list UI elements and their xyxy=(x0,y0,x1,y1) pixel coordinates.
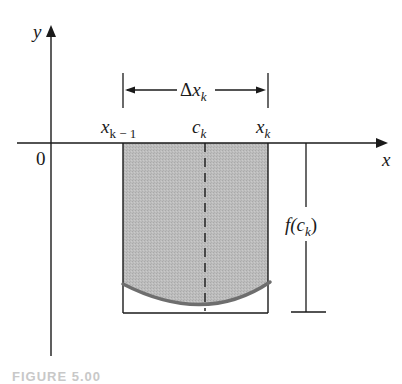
y-axis-arrow-icon xyxy=(46,25,56,37)
shaded-region xyxy=(123,143,268,305)
f-of-c-k-label: f(ck) xyxy=(285,215,317,238)
c-k-label: ck xyxy=(192,117,206,140)
y-axis-label: y xyxy=(33,22,41,41)
figure-caption: FIGURE 5.00 xyxy=(12,369,101,384)
x-k-minus-1-label: xk − 1 xyxy=(101,117,136,140)
origin-label: 0 xyxy=(36,149,46,168)
delta-x-label: Δxk xyxy=(180,80,206,103)
x-k-label: xk xyxy=(256,117,270,140)
x-axis-arrow-icon xyxy=(376,138,388,148)
x-axis-label: x xyxy=(382,150,390,169)
